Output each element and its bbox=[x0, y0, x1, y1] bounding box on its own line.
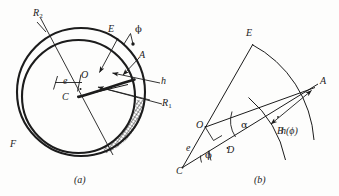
label-phi-panel-a: ϕ bbox=[135, 24, 142, 34]
label-alpha-panel-b: α bbox=[241, 120, 248, 130]
label-B-panel-b: B bbox=[277, 126, 283, 136]
label-A-panel-b: A bbox=[320, 76, 326, 86]
bearing-outer-circle bbox=[17, 28, 145, 156]
phi-angle-tick bbox=[131, 34, 134, 45]
label-E-panel-b: E bbox=[246, 28, 252, 38]
caption-panel-a: (a) bbox=[74, 174, 86, 185]
ray-C-to-E bbox=[183, 44, 254, 168]
label-C-panel-b: C bbox=[176, 166, 183, 176]
label-O-panel-b: O bbox=[196, 120, 203, 130]
leader-h-film-thickness bbox=[113, 73, 161, 83]
radius-R2-leader bbox=[37, 22, 46, 32]
caption-panel-b: (b) bbox=[254, 174, 266, 185]
figure-journal-bearing: R2 E ϕ A h R1 e O C F (a) E A h(ϕ) B O C… bbox=[0, 0, 339, 196]
label-O-panel-a: O bbox=[81, 70, 88, 80]
label-e-panel-a: e bbox=[63, 76, 67, 86]
label-R1: R1 bbox=[162, 98, 172, 110]
angle-arc-alpha bbox=[231, 112, 236, 138]
label-A-panel-a: A bbox=[139, 50, 145, 60]
attitude-angle-arm bbox=[124, 34, 131, 45]
label-h-of-phi: h(ϕ) bbox=[281, 126, 298, 136]
label-C-panel-a: C bbox=[62, 92, 69, 102]
label-h-panel-a: h bbox=[161, 76, 166, 86]
label-e-panel-b: e bbox=[186, 143, 190, 153]
leader-wedge-pointer bbox=[104, 89, 150, 101]
construction-line-O-D bbox=[206, 128, 214, 141]
panel-a-geometry bbox=[17, 18, 162, 156]
line-of-centres-R2-F bbox=[41, 18, 114, 155]
label-phi-panel-b: ϕ bbox=[205, 150, 212, 160]
dimension-h-of-phi bbox=[271, 91, 312, 125]
label-D-panel-b: D bbox=[227, 145, 234, 155]
centre-O-marker bbox=[80, 88, 82, 90]
segment-O-to-A bbox=[206, 88, 316, 128]
label-F-panel-a: F bbox=[10, 139, 16, 149]
label-R2: R2 bbox=[33, 8, 43, 20]
leader-E-to-gap bbox=[100, 38, 119, 73]
panel-b-geometry bbox=[182, 44, 318, 168]
construction-line-D-tick bbox=[214, 136, 223, 141]
label-E-panel-a: E bbox=[108, 24, 114, 34]
